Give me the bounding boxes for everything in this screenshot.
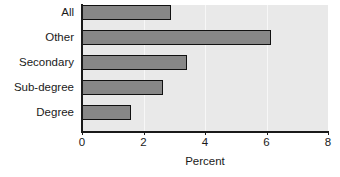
y-axis-line [81, 4, 83, 132]
category-label: All [61, 5, 74, 20]
x-tick-label: 0 [79, 135, 85, 149]
category-label: Sub-degree [14, 80, 74, 95]
x-tick-label: 2 [140, 135, 146, 149]
bar-all [82, 5, 171, 20]
x-tick-label: 4 [202, 135, 208, 149]
bar-secondary [82, 55, 187, 70]
x-axis-ticks: 0 2 4 6 8 [0, 132, 340, 150]
category-label: Degree [36, 105, 74, 120]
bar-series [82, 5, 328, 131]
category-label: Secondary [19, 55, 74, 70]
x-tick-label: 6 [263, 135, 269, 149]
x-axis-title: Percent [82, 155, 328, 167]
bar-chart: All Other Secondary Sub-degree Degree 0 … [0, 0, 340, 177]
x-tick-label: 8 [325, 135, 331, 149]
category-axis-labels: All Other Secondary Sub-degree Degree [0, 5, 78, 131]
category-label: Other [45, 30, 74, 45]
bar-other [82, 30, 271, 45]
bar-degree [82, 105, 131, 120]
bar-sub-degree [82, 80, 163, 95]
